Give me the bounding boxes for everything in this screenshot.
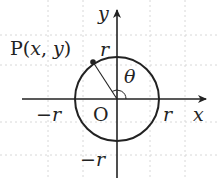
point-p-dot: [90, 59, 96, 65]
unit-circle-diagram: P(x, y) r y θ O −r r x −r: [0, 0, 220, 180]
x-axis-label: x: [193, 103, 204, 125]
background-grid: [0, 0, 220, 180]
y-axis-label: y: [97, 2, 109, 24]
neg-r-y-label: −r: [80, 148, 107, 170]
point-p-label: P(x, y): [10, 37, 71, 59]
origin-label: O: [93, 103, 109, 125]
radius-line: [93, 62, 117, 99]
neg-r-x-label: −r: [36, 103, 63, 125]
theta-label: θ: [124, 65, 136, 87]
r-x-label: r: [163, 103, 174, 125]
